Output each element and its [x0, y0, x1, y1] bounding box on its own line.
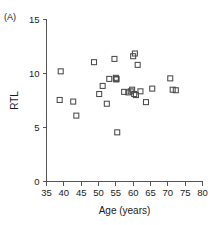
y-tick-label: 15: [29, 14, 40, 25]
data-markers-group: [57, 51, 178, 135]
data-point-marker: [71, 99, 76, 104]
ticks-group: 05101535404550556065707580: [29, 14, 208, 198]
x-tick-label: 45: [76, 187, 87, 198]
data-point-marker: [135, 62, 140, 67]
x-tick-label: 55: [111, 187, 122, 198]
data-point-marker: [115, 130, 120, 135]
scatter-plot-figure: (A) 05101535404550556065707580 Age (year…: [0, 0, 216, 225]
data-point-marker: [143, 100, 148, 105]
x-axis-title: Age (years): [99, 205, 151, 216]
data-point-marker: [58, 69, 63, 74]
data-point-marker: [74, 113, 79, 118]
x-tick-label: 60: [128, 187, 139, 198]
data-point-marker: [104, 101, 109, 106]
data-point-marker: [107, 76, 112, 81]
x-tick-label: 80: [197, 187, 208, 198]
data-point-marker: [168, 76, 173, 81]
x-tick-label: 40: [59, 187, 70, 198]
x-tick-label: 75: [180, 187, 191, 198]
data-point-marker: [100, 83, 105, 88]
data-point-marker: [112, 56, 117, 61]
data-point-marker: [97, 92, 102, 97]
plot-canvas: 05101535404550556065707580 Age (years)RT…: [0, 0, 216, 225]
y-tick-label: 5: [34, 122, 39, 133]
y-tick-label: 0: [34, 176, 39, 187]
data-point-marker: [150, 86, 155, 91]
y-axis-title: RTL: [9, 91, 20, 110]
data-point-marker: [91, 60, 96, 65]
data-point-marker: [57, 97, 62, 102]
x-tick-label: 50: [93, 187, 104, 198]
x-tick-label: 35: [41, 187, 52, 198]
axes-group: [47, 20, 203, 182]
x-tick-label: 65: [145, 187, 156, 198]
y-tick-label: 10: [29, 68, 40, 79]
x-tick-label: 70: [163, 187, 174, 198]
